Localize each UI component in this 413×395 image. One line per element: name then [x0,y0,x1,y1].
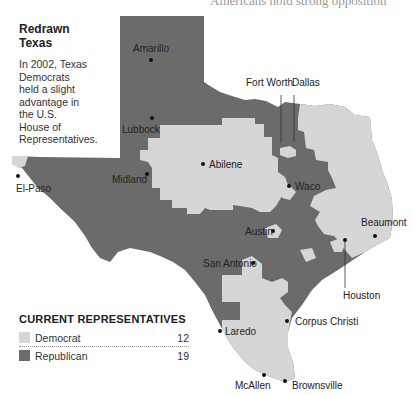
svg-text:Waco: Waco [295,181,321,192]
svg-text:El-Paso: El-Paso [16,183,51,194]
svg-text:San Antonio: San Antonio [203,258,257,269]
city-corpus-christi: Corpus Christi [285,316,358,327]
svg-text:Houston: Houston [343,290,380,301]
legend-title: CURRENT REPRESENTATIVES [19,313,189,325]
svg-text:Beaumont: Beaumont [361,217,407,228]
democrat-region-fortworth [262,140,272,148]
city-san-antonio: San Antonio [203,258,257,269]
svg-text:Fort Worth: Fort Worth [246,77,293,88]
legend-label: Republican [35,350,177,362]
svg-text:Midland: Midland [112,174,147,185]
svg-text:Laredo: Laredo [225,326,257,337]
city-austin: Austin [245,226,275,237]
legend-count: 12 [177,332,189,344]
legend-count: 19 [177,350,189,362]
city-midland: Midland [112,172,149,185]
svg-text:Dallas: Dallas [292,77,320,88]
republican-swatch [19,350,30,361]
svg-text:Austin: Austin [245,226,273,237]
svg-text:Brownsville: Brownsville [292,380,343,391]
city-brownsville: Brownsville [283,379,343,391]
city-mcallen: McAllen [235,373,271,391]
legend: CURRENT REPRESENTATIVES Democrat 12 Repu… [19,313,189,364]
legend-row-democrat: Democrat 12 [19,329,189,346]
svg-text:Amarillo: Amarillo [133,43,170,54]
city-dallas: Dallas [292,77,320,88]
legend-label: Democrat [35,332,177,344]
svg-text:McAllen: McAllen [235,380,271,391]
city-fort-worth: Fort Worth [246,77,293,88]
svg-text:Corpus Christi: Corpus Christi [295,316,358,327]
svg-text:Lubbock: Lubbock [122,124,161,135]
svg-text:Abilene: Abilene [209,159,243,170]
democrat-swatch [19,332,30,343]
legend-row-republican: Republican 19 [19,346,189,364]
